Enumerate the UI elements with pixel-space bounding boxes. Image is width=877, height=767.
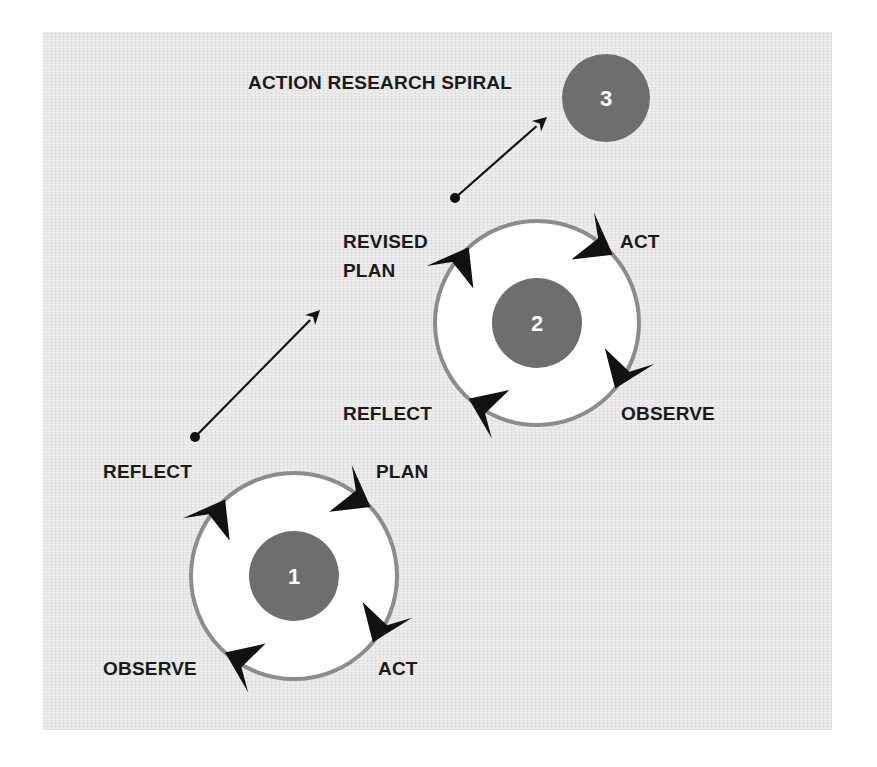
connector-dot-icon xyxy=(450,193,460,203)
cycle-2-number: 2 xyxy=(531,313,543,335)
cycle-2-reflect-label: REFLECT xyxy=(343,404,432,423)
connector-dot-icon xyxy=(190,432,200,442)
diagram-title: ACTION RESEARCH SPIRAL xyxy=(248,73,512,92)
cycle-1-observe-label: OBSERVE xyxy=(103,659,197,678)
cycle-1-number: 1 xyxy=(288,566,300,588)
cycle-1-plan-label: PLAN xyxy=(376,462,429,481)
connector-line xyxy=(455,126,536,198)
cycle-3-number: 3 xyxy=(600,88,612,110)
cycle-2-act-label: ACT xyxy=(620,232,660,251)
spiral-diagram xyxy=(0,0,877,767)
cycle-2-plan-label: PLAN xyxy=(343,261,396,280)
cycle-2-observe-label: OBSERVE xyxy=(621,404,715,423)
cycle-1-act-label: ACT xyxy=(378,659,418,678)
cycle-1-reflect-label: REFLECT xyxy=(103,462,192,481)
connector-line xyxy=(195,320,310,437)
cycle-2-revised-label: REVISED xyxy=(343,232,428,251)
